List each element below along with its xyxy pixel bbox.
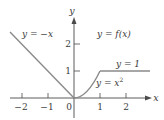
label-y-x-squared-exponent: 2 bbox=[119, 76, 123, 83]
x-tick-label: 1 bbox=[97, 102, 103, 112]
x-tick-label: 2 bbox=[123, 102, 129, 112]
label-y-x-squared: y = x2 bbox=[95, 76, 123, 88]
graph-canvas: −2 −1 0 1 2 1 2 y x y = −x y = f(x) y = … bbox=[0, 0, 164, 120]
y-ticks bbox=[74, 44, 80, 71]
y-axis-arrow-icon bbox=[72, 17, 77, 24]
y-tick-label: 2 bbox=[65, 39, 71, 49]
x-axis-label: x bbox=[153, 92, 159, 103]
piecewise-function-diagram: −2 −1 0 1 2 1 2 y x y = −x y = f(x) y = … bbox=[0, 0, 164, 120]
x-tick-label: 0 bbox=[66, 102, 72, 112]
x-tick-label: −1 bbox=[40, 102, 53, 112]
y-axis-label: y bbox=[68, 5, 75, 16]
x-axis-arrow-icon bbox=[145, 96, 152, 101]
y-tick-label: 1 bbox=[65, 66, 71, 76]
y-tick-labels: 1 2 bbox=[65, 39, 71, 76]
label-y-x-squared-base: y = x bbox=[95, 78, 119, 88]
x-tick-labels: −2 −1 0 1 2 bbox=[14, 102, 129, 112]
label-y-neg-x: y = −x bbox=[21, 29, 53, 39]
x-tick-label: −2 bbox=[14, 102, 27, 112]
label-y-f-of-x: y = f(x) bbox=[96, 29, 131, 39]
label-y-equals-1: y = 1 bbox=[115, 59, 140, 69]
